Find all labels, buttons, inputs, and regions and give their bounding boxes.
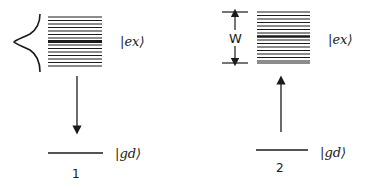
excited-state-label-1: |ex⟩ [120,34,144,49]
panel-2: W |ex⟩ |gd⟩ 2 [222,12,352,175]
ground-state-label-1: |gd⟩ [115,146,141,161]
ground-state-label-2: |gd⟩ [320,145,346,160]
excited-state-band-2 [257,12,310,63]
gaussian-envelope [14,14,40,72]
energy-level-diagram: |ex⟩ |gd⟩ 1 W [0,0,370,188]
panel-caption-2: 2 [276,161,284,175]
width-label: W [229,31,242,46]
excited-state-label-2: |ex⟩ [328,32,352,47]
panel-1: |ex⟩ |gd⟩ 1 [14,14,144,181]
excited-state-band-1 [48,17,102,66]
panel-caption-1: 1 [72,167,80,181]
